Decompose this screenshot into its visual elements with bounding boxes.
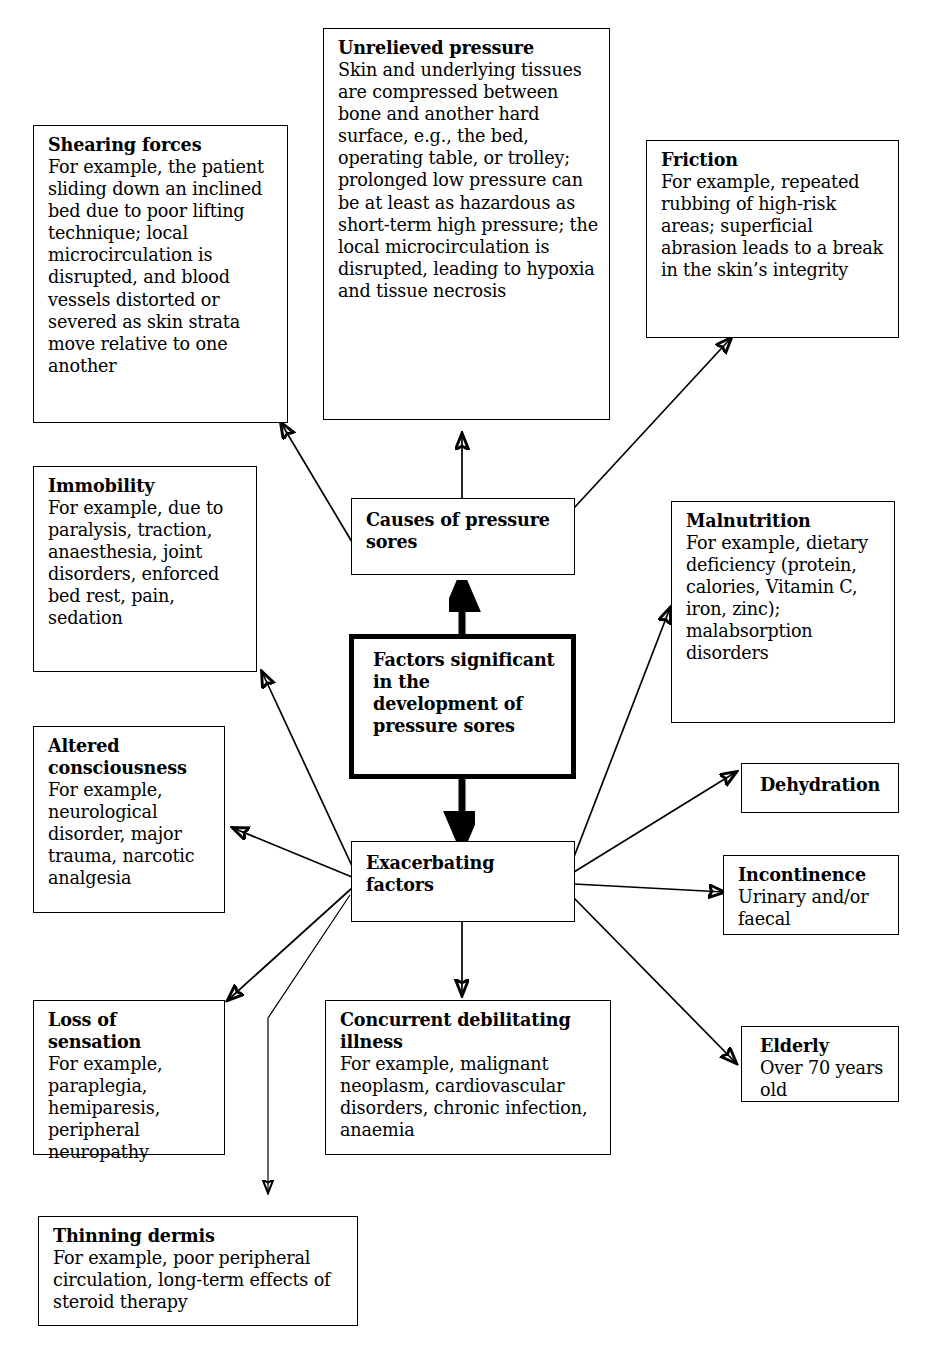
node-incontinence[interactable]: Incontinence Urinary and/or faecal [723,855,899,935]
node-exacerbating-factors[interactable]: Exacerbating factors [351,841,575,922]
node-incontinence-title: Incontinence [738,864,888,886]
wire-exacerbating-to-malnutrition [572,608,670,862]
node-malnutrition[interactable]: Malnutrition For example, dietary defici… [671,501,895,723]
node-concurrent-debilitating-illness-title: Concurrent debilitating illness [340,1009,600,1053]
wire-exacerbating-to-altered-consciousness [233,828,352,877]
node-factors-significant-line-2: development of [373,693,561,715]
node-loss-of-sensation[interactable]: Loss of sensation For example, paraplegi… [33,1000,225,1155]
node-immobility[interactable]: Immobility For example, due to paralysis… [33,466,257,672]
node-friction[interactable]: Friction For example, repeated rubbing o… [646,140,899,338]
wire-causes-to-shearing [281,423,352,542]
node-shearing-forces-title: Shearing forces [48,134,277,156]
node-factors-significant[interactable]: Factors significant in the development o… [349,634,576,779]
node-shearing-forces-body: For example, the patient sliding down an… [48,156,277,377]
node-factors-significant-title: Factors significant [373,649,561,671]
node-factors-significant-line-1: in the [373,671,561,693]
node-unrelieved-pressure-body: Skin and underlying tissues are compress… [338,59,599,302]
node-dehydration[interactable]: Dehydration [741,763,899,813]
node-exacerbating-factors-title: Exacerbating factors [366,852,564,896]
node-loss-of-sensation-body: For example, paraplegia, hemiparesis, pe… [48,1053,214,1163]
node-thinning-dermis[interactable]: Thinning dermis For example, poor periph… [38,1216,358,1326]
node-altered-consciousness[interactable]: Altered consciousness For example, neuro… [33,726,225,913]
node-elderly-body: Over 70 years old [760,1057,888,1101]
node-concurrent-debilitating-illness[interactable]: Concurrent debilitating illness For exam… [325,1000,611,1155]
node-shearing-forces[interactable]: Shearing forces For example, the patient… [33,125,288,423]
node-unrelieved-pressure-title: Unrelieved pressure [338,37,599,59]
wire-exacerbating-to-loss-of-sensation [228,888,352,1000]
diagram-canvas: Unrelieved pressure Skin and underlying … [0,0,926,1362]
node-unrelieved-pressure[interactable]: Unrelieved pressure Skin and underlying … [323,28,610,420]
node-immobility-title: Immobility [48,475,246,497]
node-immobility-body: For example, due to paralysis, traction,… [48,497,246,629]
node-thinning-dermis-body: For example, poor peripheral circulation… [53,1247,347,1313]
node-causes-of-pressure-sores[interactable]: Causes of pressure sores [351,498,575,575]
node-causes-of-pressure-sores-title: Causes of pressure sores [366,509,564,553]
node-incontinence-body: Urinary and/or faecal [738,886,888,930]
node-thinning-dermis-title: Thinning dermis [53,1225,347,1247]
node-elderly-title: Elderly [760,1035,888,1057]
wire-exacerbating-to-dehydration [574,772,736,872]
node-elderly[interactable]: Elderly Over 70 years old [741,1026,899,1102]
node-malnutrition-title: Malnutrition [686,510,884,532]
node-altered-consciousness-title: Altered consciousness [48,735,214,779]
node-friction-body: For example, repeated rubbing of high-ri… [661,171,888,281]
node-loss-of-sensation-title: Loss of sensation [48,1009,214,1053]
node-malnutrition-body: For example, dietary deficiency (protein… [686,532,884,664]
node-friction-title: Friction [661,149,888,171]
wire-exacerbating-to-immobility [262,672,352,866]
node-dehydration-title: Dehydration [760,774,888,796]
node-factors-significant-line-3: pressure sores [373,715,561,737]
node-altered-consciousness-body: For example, neurological disorder, majo… [48,779,214,889]
node-concurrent-debilitating-illness-body: For example, malignant neoplasm, cardiov… [340,1053,600,1141]
wire-exacerbating-to-incontinence [574,884,724,892]
